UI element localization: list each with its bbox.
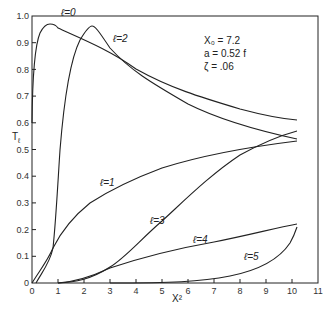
x-tick-6: 6 <box>185 286 190 296</box>
x-tick-11: 11 <box>313 286 322 296</box>
curve-l3 <box>58 131 297 283</box>
x-tick-2: 2 <box>81 286 86 296</box>
x-tick-5: 5 <box>159 286 164 296</box>
transmission-coefficient-chart: 0 0.1 0.2 0.3 0.4 0.5 0.6 0.7 0.8 0.9 1.… <box>0 0 331 310</box>
x-tick-9: 9 <box>263 286 268 296</box>
plot-frame <box>32 16 318 283</box>
y-tick-0.2: 0.2 <box>16 225 29 235</box>
label-l4: ℓ=4 <box>192 234 208 245</box>
y-tick-1.0: 1.0 <box>16 11 29 21</box>
y-tick-0.7: 0.7 <box>16 91 29 101</box>
y-tick-0.4: 0.4 <box>16 171 29 181</box>
x-tick-3: 3 <box>107 286 112 296</box>
param-a: a = 0.52 f <box>204 48 246 59</box>
label-l5: ℓ=5 <box>243 251 259 262</box>
x-axis-label: X² <box>172 293 183 304</box>
y-tick-0.6: 0.6 <box>16 118 29 128</box>
y-tick-0.3: 0.3 <box>16 198 29 208</box>
label-l2: ℓ=2 <box>112 33 128 44</box>
label-l1: ℓ=1 <box>99 177 115 188</box>
x-tick-1: 1 <box>55 286 60 296</box>
label-l3: ℓ=3 <box>149 215 165 226</box>
y-tick-0.1: 0.1 <box>16 251 29 261</box>
label-l0: ℓ=0 <box>60 7 76 18</box>
x-tick-0: 0 <box>29 286 34 296</box>
param-x0: X₀ = 7.2 <box>204 35 241 46</box>
y-tick-0.8: 0.8 <box>16 65 29 75</box>
curve-l2 <box>36 26 297 283</box>
y-tick-0.5: 0.5 <box>16 145 29 155</box>
curve-l0 <box>32 24 297 123</box>
param-zeta: ζ = .06 <box>204 61 234 73</box>
x-tick-7: 7 <box>211 286 216 296</box>
x-tick-10: 10 <box>287 286 297 296</box>
curve-l4 <box>58 224 297 283</box>
y-tick-0.9: 0.9 <box>16 38 29 48</box>
x-tick-4: 4 <box>133 286 138 296</box>
y-tick-0: 0 <box>24 278 29 288</box>
y-axis-label: Tℓ <box>12 131 21 144</box>
x-tick-8: 8 <box>237 286 242 296</box>
